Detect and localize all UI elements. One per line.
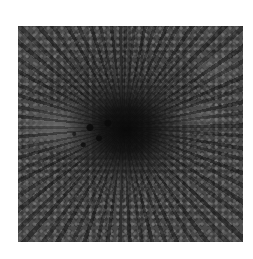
sunspot-photo [18, 26, 243, 242]
canvas [0, 0, 253, 259]
dark-pores [18, 26, 243, 242]
